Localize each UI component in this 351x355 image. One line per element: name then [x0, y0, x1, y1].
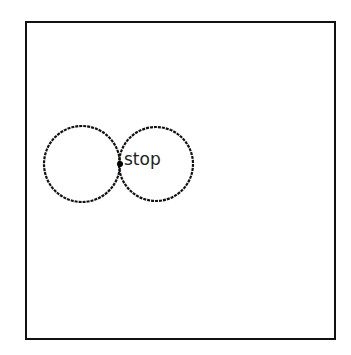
figure-eight-path — [0, 0, 351, 355]
left-loop — [44, 126, 120, 202]
stop-label: stop — [124, 149, 161, 169]
stop-marker-dot — [117, 161, 123, 167]
